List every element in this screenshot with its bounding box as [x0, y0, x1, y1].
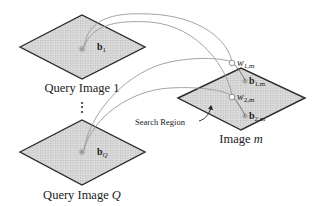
- query-image-q-plane: [20, 120, 145, 185]
- diagram-canvas: b1 bQ Query Image 1 ⋮ Query Image Q Imag…: [0, 0, 321, 206]
- caption-query-image-q: Query Image Q: [43, 188, 121, 202]
- feature-point-b2m: [242, 113, 249, 120]
- query-image-1-plane: [20, 15, 145, 79]
- vertical-ellipsis: ⋮: [75, 100, 89, 115]
- feature-point-b1: [78, 45, 86, 53]
- feature-point-bq: [78, 148, 86, 156]
- caption-image-m: Image m: [219, 132, 262, 146]
- weight-node-w1m: [229, 60, 235, 66]
- feature-point-b1m: [242, 78, 249, 85]
- caption-query-image-1: Query Image 1: [45, 81, 120, 95]
- weight-node-w2m: [229, 94, 235, 100]
- search-region-label: Search Region: [135, 117, 186, 127]
